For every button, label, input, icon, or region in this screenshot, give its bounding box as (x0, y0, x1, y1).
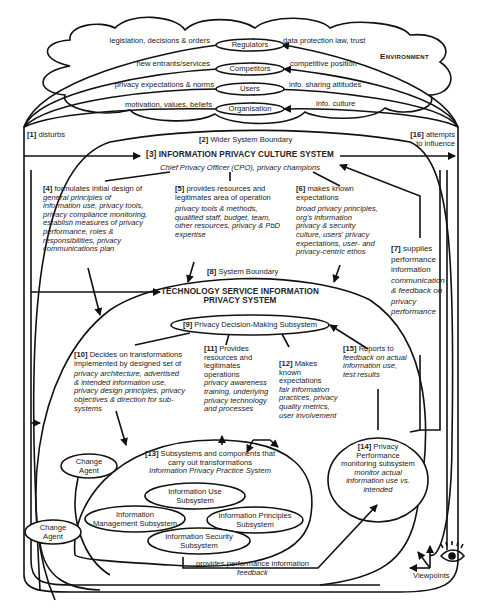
culture-system-title: [3] INFORMATION PRIVACY CULTURE SYSTEM (140, 151, 340, 160)
flow-16-label-2: to influence (416, 139, 455, 148)
step-13-block: [13] Subsystems and components that carr… (125, 450, 295, 476)
step-7-heading: information (391, 265, 445, 276)
subsystem-information-use: Information UseSubsystem (145, 488, 245, 505)
flow-1-label: disturbs (38, 130, 65, 139)
users-left-text: privacy expectations & norms (60, 81, 214, 90)
organisation-right-text: info. culture (316, 100, 355, 109)
culture-system-subtitle: Chief Privacy Officer (CPO), privacy cha… (140, 164, 340, 173)
system-boundary-label: [8] System Boundary (207, 268, 278, 277)
step-15-num: [15] (343, 344, 357, 353)
change-agent-outer: ChangeAgent (25, 524, 81, 541)
step-11-detail: and processes (204, 405, 268, 414)
step-11-heading: Provides (219, 344, 249, 353)
step-6-detail: privacy-centric ethos (296, 248, 378, 257)
subsystem-information-management: InformationManagement Subsystem (85, 511, 185, 528)
step-11-num: [11] (204, 344, 217, 353)
change-agent-label: Agent (25, 533, 81, 542)
step-11-block: [11] Provides resources and legitimates … (204, 345, 268, 414)
step-12-block: [12] Makes known expectations fair infor… (279, 360, 338, 420)
step-8-label: System Boundary (218, 267, 278, 276)
flow-2-num: [2] (199, 135, 208, 144)
feedback-flow: provides performance information feedbac… (185, 560, 320, 577)
step-7-num: [7] (391, 244, 401, 253)
step-13-detail: Information Privacy Practice System (125, 467, 295, 476)
users-right-text: info. sharing attitudes (289, 81, 361, 90)
feedback-flow-detail: feedback (185, 569, 320, 578)
step-8-num: [8] (207, 267, 216, 276)
wider-system-boundary: [2] Wider System Boundary (199, 136, 292, 145)
step-5-block: [5] provides resources and legitimates a… (175, 185, 280, 240)
step-6-heading: makes known (307, 184, 353, 193)
step-5-detail: expertise (175, 231, 280, 240)
step-14-num: [14] (358, 442, 372, 451)
step-13-num: [13] (145, 449, 159, 458)
organisation-left-text: motivation, values, beliefs (60, 101, 212, 110)
step-7-heading: supplies (403, 244, 432, 253)
step-10-heading: Decides on transformations (90, 350, 182, 359)
flow-1-disturbs: [1] disturbs (27, 131, 65, 140)
subsystem-information-security: Information SecuritySubsystem (148, 533, 250, 550)
step-12-detail: user involvement (279, 412, 338, 421)
step-9-label: Privacy Decision-Making Subsystem (194, 320, 317, 329)
step-10-block: [10] Decides on transformations implemen… (74, 351, 185, 413)
step-6-block: [6] makes known expectations broad priva… (296, 185, 378, 257)
regulators-right-text: data protection law, trust (283, 37, 365, 46)
step-14-heading: Privacy (373, 442, 398, 451)
competitors-left-text: new entrants/services (60, 60, 210, 69)
step-15-detail: test results (343, 371, 407, 380)
subsystem-label: Subsystem (207, 521, 303, 530)
eye-icon (440, 545, 466, 563)
step-7-heading: performance (391, 255, 445, 266)
step-4-block: [4] formulates initial design of general… (43, 185, 147, 254)
step-7-detail: performance (391, 307, 445, 318)
step-15-heading: Reports to (359, 344, 394, 353)
step-7-detail: communication (391, 276, 445, 287)
competitors-right-text: competitive position (290, 60, 357, 69)
step-4-heading: formulates initial design of (54, 184, 142, 193)
step-5-heading: legitimates area of operation (175, 194, 280, 203)
step-5-heading: provides resources and (186, 184, 265, 193)
actor-competitors: Competitors (216, 65, 284, 74)
step-10-num: [10] (74, 350, 88, 359)
step-10-heading: implemented by designed set of (74, 360, 185, 369)
change-agent-inner: ChangeAgent (61, 458, 117, 475)
subsystem-label: Subsystem (148, 542, 250, 551)
actor-regulators: Regulators (216, 41, 284, 50)
tech-system-title-line-2: PRIVACY SYSTEM (160, 297, 320, 306)
viewpoints-label: Viewpoints (413, 572, 450, 581)
subsystem-label: Management Subsystem (85, 520, 185, 529)
step-9-num: [9] (183, 320, 192, 329)
step-6-num: [6] (296, 184, 305, 193)
change-agent-label: Agent (61, 467, 117, 476)
flow-16-attempts-to-influence: [16] attemptsto influence (395, 131, 455, 148)
subsystem-information-principles: Information PrinciplesSubsystem (207, 512, 303, 529)
step-12-num: [12] (279, 359, 293, 368)
step-6-heading: expectations (296, 194, 378, 203)
step-5-num: [5] (175, 184, 184, 193)
step-12-heading: Makes (295, 359, 317, 368)
step-14-detail: intended (330, 486, 426, 495)
actor-organisation: Organisation (216, 105, 284, 114)
step-15-block: [15] Reports to feedback on actual infor… (343, 345, 407, 379)
step-10-detail: systems (74, 405, 185, 414)
subsystem-label: Subsystem (145, 497, 245, 506)
step-13-heading: Subsystems and components that (161, 449, 275, 458)
step-7-detail: & feedback on (391, 286, 445, 297)
actor-users: Users (216, 85, 284, 94)
step-7-detail: privacy (391, 297, 445, 308)
flow-1-num: [1] (27, 130, 36, 139)
step-7-block: [7] supplies performance information com… (391, 244, 445, 318)
step-14-block: [14] Privacy Performance monitoring subs… (330, 443, 426, 495)
regulators-left-text: legislation, decisions & orders (60, 37, 210, 46)
step-4-num: [4] (43, 184, 52, 193)
tech-system-title: TECHNOLOGY SERVICE INFORMATION PRIVACY S… (160, 288, 320, 305)
decision-making-subsystem: [9] Privacy Decision-Making Subsystem (171, 321, 329, 330)
flow-2-label: Wider System Boundary (210, 135, 292, 144)
environment-label: Environment (380, 53, 429, 62)
step-4-detail: communications plan (43, 245, 147, 254)
